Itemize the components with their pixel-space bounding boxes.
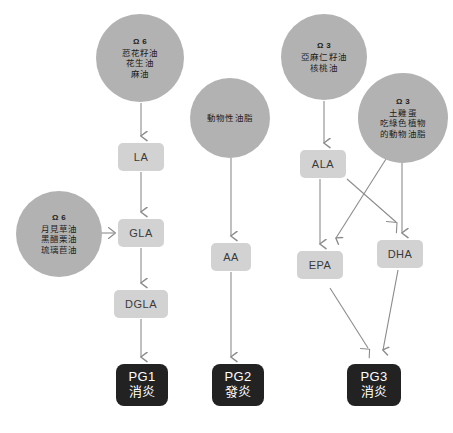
source-line: 月見草油 xyxy=(41,224,78,235)
edge-ala-to-dha-head xyxy=(387,222,398,233)
source-line: 吃綠色植物 xyxy=(380,118,426,129)
source-line: 琉璃苣油 xyxy=(41,245,78,256)
omega-label: Ω 3 xyxy=(396,97,410,107)
omega-label: Ω 3 xyxy=(317,41,331,51)
source-line: 花生油 xyxy=(126,58,154,69)
source-omega3-flaxseed[interactable]: Ω 3 亞麻仁籽油 核桃油 xyxy=(281,14,367,100)
node-ala[interactable]: ALA xyxy=(300,150,346,178)
node-label: DGLA xyxy=(125,298,157,310)
source-line: 黑醋栗油 xyxy=(41,234,78,245)
edge-dha-to-pg3 xyxy=(383,270,398,350)
source-line: 亞麻仁籽油 xyxy=(301,52,347,63)
pg-effect: 消炎 xyxy=(129,385,156,400)
edge-epa-to-pg3-head xyxy=(361,349,370,358)
source-line: 荵花籽油 xyxy=(122,48,159,59)
pg-effect: 消炎 xyxy=(361,385,388,400)
edge-ala-to-dha xyxy=(347,179,396,222)
source-line: 土雞蛋 xyxy=(389,108,417,119)
terminal-pg1[interactable]: PG1 消炎 xyxy=(116,364,168,406)
node-label: LA xyxy=(134,151,148,163)
pg-code: PG2 xyxy=(224,370,251,385)
terminal-pg2[interactable]: PG2 發炎 xyxy=(212,364,264,406)
edge-epa-to-pg3 xyxy=(330,288,368,348)
node-label: GLA xyxy=(129,227,153,239)
source-animal-fat[interactable]: 動物性油脂 xyxy=(190,78,270,158)
node-aa[interactable]: AA xyxy=(211,243,251,271)
omega-label: Ω 6 xyxy=(133,37,147,47)
omega-label: Ω 6 xyxy=(52,213,66,223)
source-line: 動物性油脂 xyxy=(207,113,253,124)
node-dgla[interactable]: DGLA xyxy=(114,290,168,318)
node-gla[interactable]: GLA xyxy=(118,219,164,247)
source-omega6-seed-oils[interactable]: Ω 6 荵花籽油 花生油 麻油 xyxy=(96,14,184,102)
node-label: ALA xyxy=(312,158,334,170)
pg-effect: 發炎 xyxy=(225,385,252,400)
node-label: EPA xyxy=(309,259,332,271)
node-la[interactable]: LA xyxy=(118,143,164,171)
source-omega3-free-range-egg[interactable]: Ω 3 土雞蛋 吃綠色植物 的動物油脂 xyxy=(358,73,448,163)
pg-code: PG3 xyxy=(360,370,387,385)
node-label: AA xyxy=(223,251,239,263)
node-label: DHA xyxy=(388,248,413,260)
source-line: 麻油 xyxy=(131,69,149,80)
pg-code: PG1 xyxy=(128,370,155,385)
terminal-pg3[interactable]: PG3 消炎 xyxy=(347,364,401,406)
node-dha[interactable]: DHA xyxy=(377,240,423,268)
source-line: 核桃油 xyxy=(310,63,338,74)
source-omega6-evening-primrose[interactable]: Ω 6 月見草油 黑醋栗油 琉璃苣油 xyxy=(16,191,102,277)
source-line: 的動物油脂 xyxy=(380,129,426,140)
node-epa[interactable]: EPA xyxy=(297,251,343,279)
diagram-canvas: Ω 6 荵花籽油 花生油 麻油 Ω 6 月見草油 黑醋栗油 琉璃苣油 動物性油脂… xyxy=(0,0,453,433)
